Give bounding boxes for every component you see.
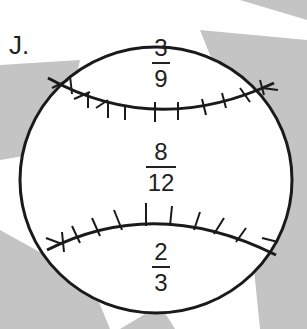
- numerator: 2: [154, 238, 167, 265]
- problem-label: J.: [9, 30, 29, 61]
- fraction-bar: [146, 166, 176, 168]
- numerator: 8: [154, 138, 167, 165]
- fraction-top: 3 9: [141, 36, 181, 91]
- numerator: 3: [154, 34, 167, 61]
- denominator: 9: [154, 65, 167, 92]
- fraction-middle: 8 12: [141, 140, 181, 195]
- fraction-bottom: 2 3: [141, 240, 181, 295]
- denominator: 3: [154, 269, 167, 296]
- baseball-fraction-card: J. 3 9 8 12 2 3: [0, 0, 307, 329]
- denominator: 12: [148, 169, 175, 196]
- fraction-bar: [152, 62, 170, 64]
- fraction-bar: [152, 266, 170, 268]
